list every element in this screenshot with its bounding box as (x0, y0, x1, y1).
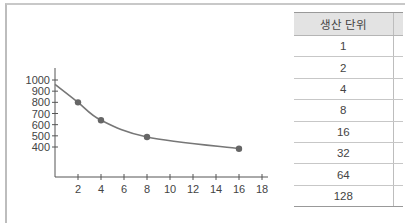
y-tick-label: 700 (32, 108, 50, 120)
chart-axes (55, 68, 268, 177)
y-tick-label: 800 (32, 96, 50, 108)
header-production-units: 생산 단위 (294, 13, 393, 36)
table-cell: 4 (294, 78, 393, 99)
data-point-marker (98, 117, 104, 123)
data-markers (75, 99, 242, 152)
header-second-column (393, 13, 403, 36)
x-tick-label: 10 (164, 183, 176, 195)
y-tick-label: 900 (32, 85, 50, 97)
x-tick-label: 4 (98, 183, 104, 195)
x-tick-label: 2 (75, 183, 81, 195)
table-cell: 1 (294, 36, 393, 57)
data-point-marker (75, 99, 81, 105)
x-tick-label: 8 (144, 183, 150, 195)
y-tick-label: 1000 (26, 74, 50, 86)
data-point-marker (144, 134, 150, 140)
y-tick-label: 400 (32, 141, 50, 153)
table-cell: 32 (294, 142, 393, 163)
x-tick-label: 16 (233, 183, 245, 195)
learning-curve-chart: 400500600700800900100024681012141618 (0, 0, 290, 213)
x-tick-label: 18 (256, 183, 268, 195)
table-cell: 2 (294, 57, 393, 78)
y-tick-label: 500 (32, 130, 50, 142)
table-cell: 64 (294, 164, 393, 185)
table-cell: 8 (294, 100, 393, 121)
x-tick-label: 14 (210, 183, 222, 195)
data-point-marker (236, 145, 242, 151)
y-tick-label: 600 (32, 119, 50, 131)
production-units-table: 생산 단위 1 2 4 8 16 32 64 128 (294, 12, 403, 207)
table-cell: 16 (294, 121, 393, 142)
x-tick-label: 6 (121, 183, 127, 195)
table-cell: 128 (294, 185, 393, 206)
x-tick-label: 12 (187, 183, 199, 195)
